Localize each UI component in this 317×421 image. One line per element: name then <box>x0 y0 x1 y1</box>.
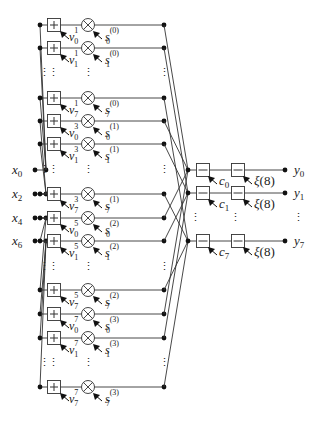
s-arrow-icon <box>93 54 102 62</box>
multiplier-icon <box>82 92 95 105</box>
v-arrow-icon <box>60 224 69 232</box>
s-coefficient-label: s(2)1 <box>105 242 119 262</box>
subtractor-icon <box>232 164 245 177</box>
s-coefficient-label: s(3)0 <box>105 315 119 335</box>
vertical-ellipsis: ⋮ <box>159 260 170 272</box>
branch-start-dot <box>38 46 43 51</box>
c-arrow-icon <box>208 199 217 207</box>
v-arrow-icon <box>60 127 69 135</box>
v-coefficient-label: v71 <box>69 339 78 359</box>
v-coefficient-label: v30 <box>69 122 78 142</box>
adder-icon <box>48 115 61 128</box>
c-coefficient-label: c7 <box>219 244 230 261</box>
xi-arrow-icon <box>243 247 252 255</box>
v-coefficient-label: v10 <box>69 26 78 46</box>
branch-start-dot <box>38 23 43 28</box>
branch-start-dot <box>38 385 43 390</box>
combine-line <box>164 25 188 170</box>
s-arrow-icon <box>93 320 102 328</box>
input-label-x2: x2 <box>11 186 22 203</box>
adder-icon <box>48 92 61 105</box>
s-coefficient-label: s(0)7 <box>105 99 119 119</box>
xi-arrow-icon <box>243 176 252 184</box>
v-coefficient-label: v31 <box>69 145 78 165</box>
adder-icon <box>48 19 61 32</box>
v-arrow-icon <box>60 54 69 62</box>
s-arrow-icon <box>93 150 102 158</box>
signal-flow-diagram: x0x2x4x6v10s(0)0v11s(0)1v17s(0)7v30s(1)0… <box>0 0 317 421</box>
multiplier-icon <box>82 188 95 201</box>
input-label-x4: x4 <box>11 210 23 227</box>
combine-dot <box>186 168 191 173</box>
vertical-ellipsis: ⋮ <box>293 211 304 223</box>
s-coefficient-label: s(3)7 <box>105 388 119 408</box>
v-coefficient-label: v17 <box>69 99 78 119</box>
s-arrow-icon <box>93 31 102 39</box>
v-arrow-icon <box>60 200 69 208</box>
v-coefficient-label: v37 <box>69 195 78 215</box>
v-arrow-icon <box>60 150 69 158</box>
output-dot <box>283 191 288 196</box>
adder-icon <box>48 381 61 394</box>
multiplier-icon <box>82 19 95 32</box>
s-coefficient-label: s(3)1 <box>105 339 119 359</box>
output-dot <box>283 168 288 173</box>
multiplier-icon <box>82 235 95 248</box>
branch-start-dot <box>38 216 43 221</box>
s-arrow-icon <box>93 200 102 208</box>
vertical-ellipsis: ⋮ <box>48 163 59 175</box>
subtractor-icon <box>197 164 210 177</box>
input-dot <box>33 168 38 173</box>
v-arrow-icon <box>60 344 69 352</box>
adder-icon <box>48 138 61 151</box>
output-label-y0: y0 <box>292 162 305 179</box>
adder-icon <box>48 308 61 321</box>
c-arrow-icon <box>208 247 217 255</box>
c-coefficient-label: c1 <box>219 196 229 213</box>
s-coefficient-label: s(2)0 <box>105 219 119 239</box>
vertical-ellipsis: ⋮ <box>159 163 170 175</box>
vertical-ellipsis: ⋮ <box>83 260 94 272</box>
s-arrow-icon <box>93 247 102 255</box>
s-arrow-icon <box>93 104 102 112</box>
combine-line <box>164 170 188 314</box>
adder-icon <box>48 235 61 248</box>
xi-label: ξ(8) <box>254 173 275 188</box>
s-coefficient-label: s(1)1 <box>105 145 119 165</box>
v-coefficient-label: v57 <box>69 291 78 311</box>
input-dot <box>33 192 38 197</box>
s-coefficient-label: s(0)0 <box>105 26 119 46</box>
v-arrow-icon <box>60 393 69 401</box>
branch-start-dot <box>38 119 43 124</box>
s-coefficient-label: s(1)0 <box>105 122 119 142</box>
multiplier-icon <box>82 332 95 345</box>
v-arrow-icon <box>60 247 69 255</box>
v-coefficient-label: v70 <box>69 315 78 335</box>
branch-start-dot <box>38 239 43 244</box>
output-dot <box>283 239 288 244</box>
s-arrow-icon <box>93 344 102 352</box>
vertical-ellipsis: ⋮ <box>48 356 59 368</box>
output-label-y1: y1 <box>292 185 304 202</box>
input-dot <box>33 216 38 221</box>
branch-start-dot <box>38 192 43 197</box>
s-arrow-icon <box>93 224 102 232</box>
adder-icon <box>48 188 61 201</box>
input-label-x0: x0 <box>11 162 23 179</box>
c-coefficient-label: c0 <box>219 173 230 190</box>
c-arrow-icon <box>208 176 217 184</box>
vertical-ellipsis: ⋮ <box>190 211 201 223</box>
xi-arrow-icon <box>243 199 252 207</box>
branch-start-dot <box>38 96 43 101</box>
xi-label: ξ(8) <box>254 244 275 259</box>
v-arrow-icon <box>60 296 69 304</box>
adder-icon <box>48 42 61 55</box>
s-arrow-icon <box>93 127 102 135</box>
v-coefficient-label: v51 <box>69 242 78 262</box>
output-label-y7: y7 <box>292 233 305 250</box>
vertical-ellipsis: ⋮ <box>230 211 241 223</box>
multiplier-icon <box>82 212 95 225</box>
input-dot <box>33 239 38 244</box>
v-arrow-icon <box>60 320 69 328</box>
multiplier-icon <box>82 42 95 55</box>
